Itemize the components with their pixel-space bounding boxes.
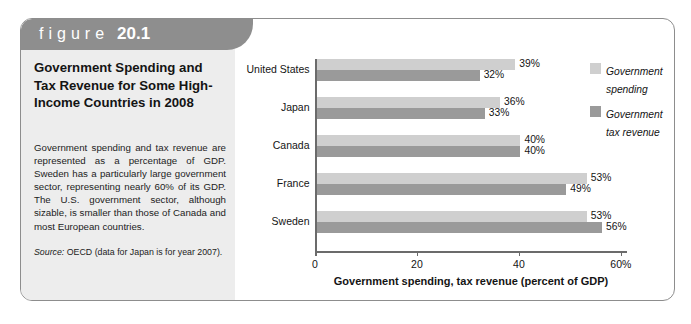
figure-banner: figure20.1 — [21, 19, 253, 50]
legend-item-spending: Government spending — [590, 61, 675, 97]
figure-source-label: Source: — [34, 247, 64, 257]
bar-spending: 53% — [317, 173, 587, 184]
x-tick-label: 0 — [312, 258, 318, 270]
bar-revenue: 32% — [317, 70, 480, 81]
category-label: Japan — [281, 101, 310, 113]
bar-value-label: 49% — [570, 183, 591, 194]
bar-value-label: 40% — [524, 145, 545, 156]
bar-value-label: 53% — [591, 172, 612, 183]
figure-container: figure20.1 Government Spending and Tax R… — [20, 18, 675, 301]
x-tick-mark — [315, 251, 317, 256]
chart-plot-region: United States39%32%Japan36%33%Canada40%4… — [235, 19, 675, 301]
category-label: Sweden — [272, 215, 310, 227]
legend-swatch-spending-icon — [590, 63, 601, 74]
bar-value-label: 40% — [524, 134, 545, 145]
chart-axes: United States39%32%Japan36%33%Canada40%4… — [315, 59, 627, 251]
category-label: France — [277, 177, 310, 189]
bar-revenue: 33% — [317, 108, 485, 119]
x-tick-label: 20 — [411, 258, 423, 270]
figure-source-text: OECD (data for Japan is for year 2007). — [67, 247, 222, 257]
category-label: United States — [246, 63, 309, 75]
legend-swatch-revenue-icon — [590, 106, 601, 117]
bar-value-label: 39% — [519, 58, 540, 69]
bar-revenue: 40% — [317, 146, 521, 157]
x-axis-title: Government spending, tax revenue (percen… — [334, 275, 608, 287]
figure-banner-number: 20.1 — [117, 24, 150, 43]
legend-item-revenue: Government tax revenue — [590, 104, 675, 140]
bar-revenue: 56% — [317, 222, 602, 233]
x-tick-label: 60% — [610, 258, 631, 270]
figure-title: Government Spending and Tax Revenue for … — [34, 59, 224, 112]
x-axis-line — [315, 251, 627, 253]
bar-revenue: 49% — [317, 184, 567, 195]
bar-spending: 36% — [317, 97, 501, 108]
figure-banner-word: figure — [39, 25, 109, 42]
bar-value-label: 36% — [504, 96, 525, 107]
figure-caption: Government spending and tax revenue are … — [34, 141, 226, 233]
x-tick-mark — [621, 251, 623, 256]
bar-spending: 53% — [317, 211, 587, 222]
legend-label-revenue: Government tax revenue — [606, 109, 663, 138]
figure-banner-label: figure20.1 — [39, 24, 150, 44]
x-tick-mark — [417, 251, 419, 256]
x-tick-label: 40 — [513, 258, 525, 270]
legend-label-spending: Government spending — [606, 66, 663, 95]
bar-value-label: 56% — [606, 221, 627, 232]
bar-spending: 40% — [317, 135, 521, 146]
bar-value-label: 33% — [489, 107, 510, 118]
bar-value-label: 53% — [591, 210, 612, 221]
chart-legend: Government spending Government tax reven… — [590, 61, 675, 147]
bar-value-label: 32% — [484, 69, 505, 80]
x-tick-mark — [519, 251, 521, 256]
category-label: Canada — [273, 139, 310, 151]
figure-source: Source: OECD (data for Japan is for year… — [34, 247, 229, 258]
